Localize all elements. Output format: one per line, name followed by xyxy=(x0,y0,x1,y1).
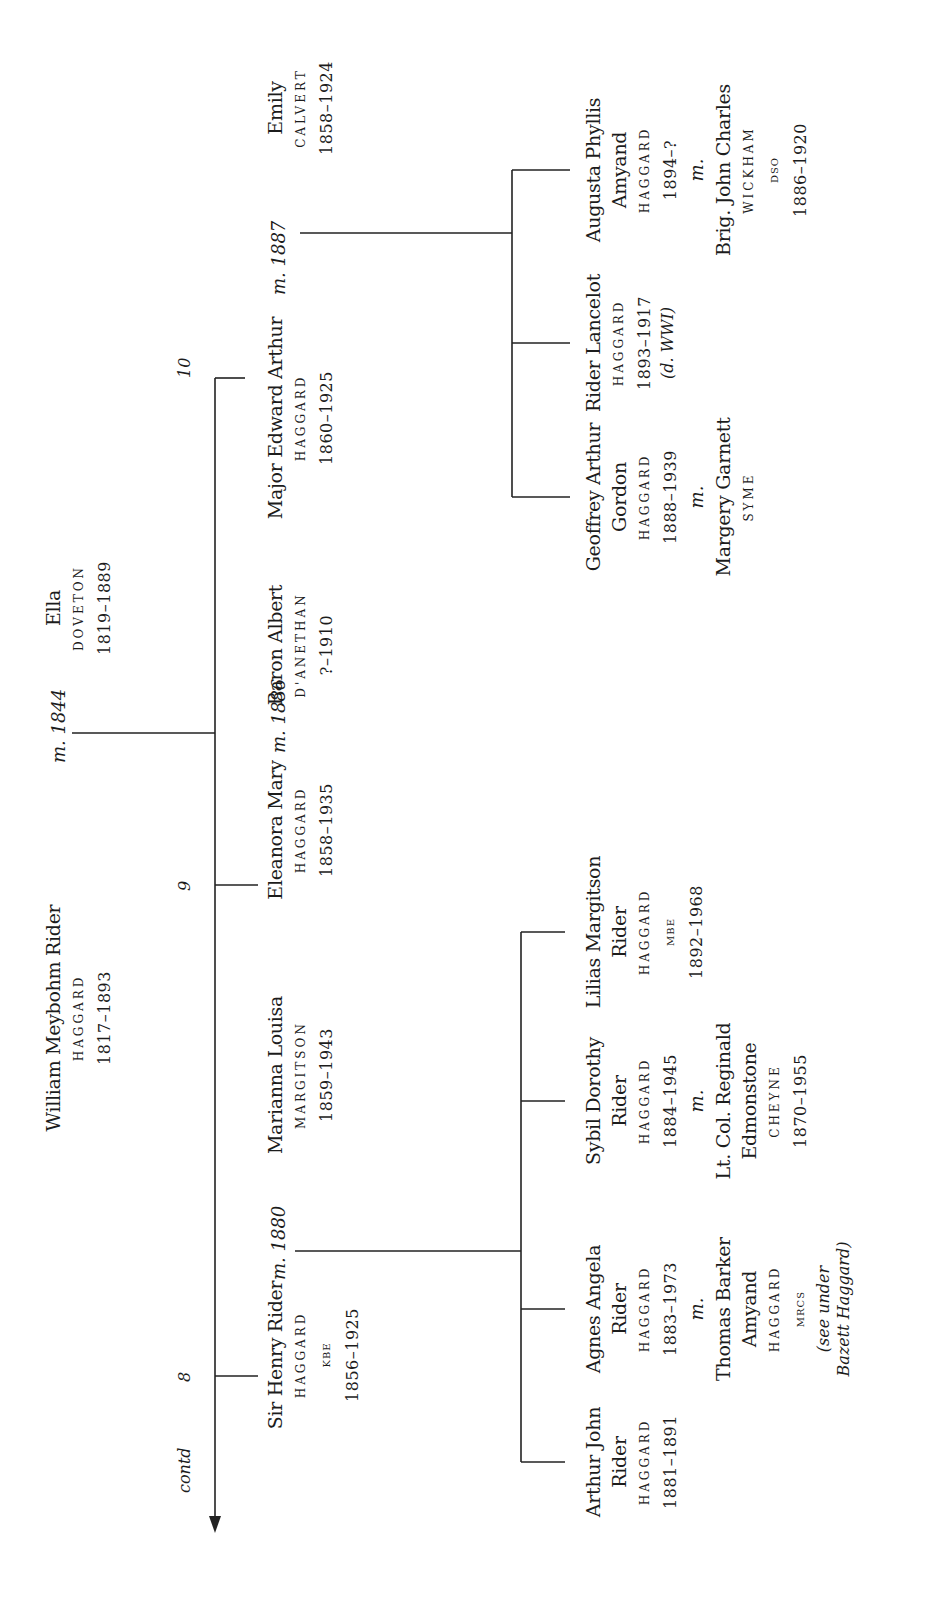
cross-reference-note: (see under xyxy=(814,1237,834,1381)
life-dates: 1892–1968 xyxy=(684,856,710,1008)
cross-reference-note-line-2: Bazett Haggard) xyxy=(834,1237,854,1381)
given-name: William Meybohm Rider xyxy=(40,905,66,1132)
surname: D'ANETHAN xyxy=(288,585,314,705)
given-name-line-2: Rider xyxy=(606,1237,632,1381)
given-name: Lilias Margitson xyxy=(580,856,606,1008)
surname: HAGGARD xyxy=(632,1407,658,1517)
given-name-line-2: Gordon xyxy=(606,418,632,577)
spouse-given-name: Margery Garnett xyxy=(710,418,736,577)
marriage-label-1844: m. 1844 xyxy=(48,689,69,763)
spouse-surname: CHEYNE xyxy=(762,1023,788,1180)
branch-number-8: 8 xyxy=(175,1372,194,1382)
surname: HAGGARD xyxy=(632,418,658,577)
surname: HAGGARD xyxy=(606,274,632,412)
life-dates: 1859–1943 xyxy=(314,996,340,1154)
given-name: Major Edward Arthur xyxy=(262,317,288,519)
given-name-line-2: Amyand xyxy=(606,84,632,256)
marriage-label-1887: m. 1887 xyxy=(268,221,289,295)
given-name: Emily xyxy=(262,61,288,155)
continued-label: contd xyxy=(175,1447,194,1493)
person-ella-doveton: Ella DOVETON 1819–1889 xyxy=(40,561,118,655)
spouse-given-name: Lt. Col. Reginald xyxy=(710,1023,736,1180)
person-sir-henry-rider-haggard: Sir Henry Rider HAGGARD KBE 1856–1925 xyxy=(262,1281,366,1430)
family-tree-diagram: contd 10 9 8 William Meybohm Rider HAGGA… xyxy=(0,0,943,1613)
given-name: Sir Henry Rider xyxy=(262,1281,288,1430)
marriage-label-1880: m. 1880 xyxy=(268,1206,289,1280)
given-name: Ella xyxy=(40,561,66,655)
spouse-life-dates: 1870–1955 xyxy=(788,1023,814,1180)
given-name: Sybil Dorothy xyxy=(580,1023,606,1180)
spouse-honour: DSO xyxy=(762,84,788,256)
person-emily-calvert: Emily CALVERT 1858–1924 xyxy=(262,61,340,155)
life-dates: 1883–1973 xyxy=(658,1237,684,1381)
person-lilias-margitson-rider-haggard: Lilias Margitson Rider HAGGARD MBE 1892–… xyxy=(580,856,710,1008)
given-name-line-2: Rider xyxy=(606,856,632,1008)
life-dates: 1858–1924 xyxy=(314,61,340,155)
spouse-surname: WICKHAM xyxy=(736,84,762,256)
life-dates: 1894–? xyxy=(658,84,684,256)
surname: MARGITSON xyxy=(288,996,314,1154)
given-name: Geoffrey Arthur xyxy=(580,418,606,577)
death-note: (d. WWI) xyxy=(658,274,678,412)
marriage-label-1886: m. 1886 xyxy=(268,679,289,753)
person-agnes-angela-rider-haggard: Agnes Angela Rider HAGGARD 1883–1973 m. … xyxy=(580,1237,854,1381)
life-dates: 1888–1939 xyxy=(658,418,684,577)
given-name: Augusta Phyllis xyxy=(580,84,606,256)
branch-number-10: 10 xyxy=(175,358,194,378)
life-dates: 1881–1891 xyxy=(658,1407,684,1517)
life-dates: 1817–1893 xyxy=(92,905,118,1132)
life-dates: 1884–1945 xyxy=(658,1023,684,1180)
spouse-surname: SYME xyxy=(736,418,762,577)
life-dates: 1819–1889 xyxy=(92,561,118,655)
surname: HAGGARD xyxy=(288,317,314,519)
honour: MBE xyxy=(658,856,684,1008)
person-geoffrey-arthur-gordon-haggard: Geoffrey Arthur Gordon HAGGARD 1888–1939… xyxy=(580,418,762,577)
spouse-given-name-line-2: Amyand xyxy=(736,1237,762,1381)
given-name: Rider Lancelot xyxy=(580,274,606,412)
given-name: Agnes Angela xyxy=(580,1237,606,1381)
surname: HAGGARD xyxy=(632,1237,658,1381)
spouse-given-name: Brig. John Charles xyxy=(710,84,736,256)
surname: HAGGARD xyxy=(66,905,92,1132)
person-marianna-louisa-margitson: Marianna Louisa MARGITSON 1859–1943 xyxy=(262,996,340,1154)
given-name-line-2: Rider xyxy=(606,1023,632,1180)
surname: HAGGARD xyxy=(632,84,658,256)
surname: HAGGARD xyxy=(632,856,658,1008)
surname: CALVERT xyxy=(288,61,314,155)
life-dates: 1856–1925 xyxy=(340,1281,366,1430)
surname: DOVETON xyxy=(66,561,92,655)
person-william-meybohm-rider-haggard: William Meybohm Rider HAGGARD 1817–1893 xyxy=(40,905,118,1132)
marriage-label: m. xyxy=(684,1023,710,1180)
spouse-life-dates: 1886–1920 xyxy=(788,84,814,256)
spouse-given-name-line-2: Edmonstone xyxy=(736,1023,762,1180)
person-sybil-dorothy-rider-haggard: Sybil Dorothy Rider HAGGARD 1884–1945 m.… xyxy=(580,1023,814,1180)
person-eleanora-mary-haggard: Eleanora Mary HAGGARD 1858–1935 xyxy=(262,760,340,899)
life-dates: 1858–1935 xyxy=(314,760,340,899)
person-rider-lancelot-haggard: Rider Lancelot HAGGARD 1893–1917 (d. WWI… xyxy=(580,274,678,412)
person-major-edward-arthur-haggard: Major Edward Arthur HAGGARD 1860–1925 xyxy=(262,317,340,519)
life-dates: 1893–1917 xyxy=(632,274,658,412)
person-augusta-phyllis-amyand-haggard: Augusta Phyllis Amyand HAGGARD 1894–? m.… xyxy=(580,84,814,256)
life-dates: 1860–1925 xyxy=(314,317,340,519)
spouse-surname: HAGGARD xyxy=(762,1237,788,1381)
given-name: Arthur John xyxy=(580,1407,606,1517)
marriage-label: m. xyxy=(684,1237,710,1381)
spouse-honour: MRCS xyxy=(788,1237,814,1381)
surname: HAGGARD xyxy=(632,1023,658,1180)
marriage-label: m. xyxy=(684,418,710,577)
branch-number-9: 9 xyxy=(175,881,194,891)
given-name-line-2: Rider xyxy=(606,1407,632,1517)
life-dates: ?–1910 xyxy=(314,585,340,705)
given-name: Marianna Louisa xyxy=(262,996,288,1154)
spouse-given-name: Thomas Barker xyxy=(710,1237,736,1381)
honour: KBE xyxy=(314,1281,340,1430)
marriage-label: m. xyxy=(684,84,710,256)
given-name: Eleanora Mary xyxy=(262,760,288,899)
surname: HAGGARD xyxy=(288,760,314,899)
contd-arrow-icon xyxy=(209,1516,221,1533)
person-arthur-john-rider-haggard: Arthur John Rider HAGGARD 1881–1891 xyxy=(580,1407,684,1517)
surname: HAGGARD xyxy=(288,1281,314,1430)
